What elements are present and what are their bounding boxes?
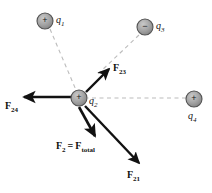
charge-label-q1-subscript: 1 <box>61 20 65 28</box>
charge-label-q4: q4 <box>188 111 197 124</box>
charge-label-q4-subscript: 4 <box>193 116 197 124</box>
force-label-Ftotal-subscript: total <box>81 146 95 154</box>
charge-label-q3: q3 <box>156 21 165 34</box>
charge-label-q2-subscript: 2 <box>94 101 98 109</box>
force-label-equals-sign: = <box>66 140 76 151</box>
plus-sign-icon-q1: + <box>38 16 52 25</box>
minus-sign-icon-q3: − <box>138 22 152 31</box>
force-label-F23: F23 <box>113 63 126 76</box>
force-vector-F23 <box>86 69 109 92</box>
force-diagram-canvas: + − + + q1 q3 q2 q4 F23 F24 F21 F2=Ftota… <box>0 0 212 193</box>
plus-sign-icon-q4: + <box>187 94 201 103</box>
force-label-F2-total: F2=Ftotal <box>56 141 95 154</box>
force-diagram-svg <box>0 0 212 193</box>
force-vector-F2-total <box>79 107 95 136</box>
dashed-line-q1-q2 <box>50 29 76 90</box>
charge-label-q2: q2 <box>89 96 98 109</box>
plus-sign-icon-q2: + <box>72 93 86 102</box>
force-label-F24: F24 <box>5 101 18 114</box>
force-label-F21-subscript: 21 <box>133 175 140 183</box>
force-label-F24-subscript: 24 <box>11 106 18 114</box>
charge-label-q1: q1 <box>56 15 65 28</box>
force-label-F23-subscript: 23 <box>119 68 126 76</box>
force-label-F21: F21 <box>127 170 140 183</box>
charge-label-q3-subscript: 3 <box>161 26 165 34</box>
